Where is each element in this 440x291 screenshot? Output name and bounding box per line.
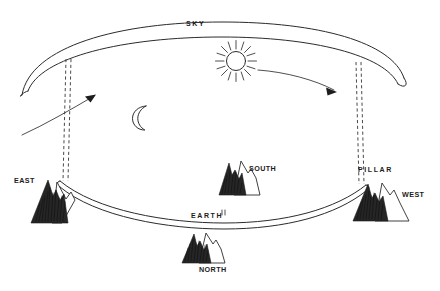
sky-label: SKY [186, 20, 205, 27]
earth-disc-arc [57, 181, 369, 229]
earth-label: EARTH [191, 212, 223, 219]
sun-icon [216, 41, 257, 82]
mountain-icon-north [182, 233, 225, 263]
north-label: NORTH [199, 266, 227, 273]
crescent-moon-icon [133, 106, 147, 130]
arrow-down-right-icon [258, 70, 337, 96]
sky-vault-arc [20, 22, 406, 96]
south-label: SOUTH [249, 165, 276, 172]
west-label: WEST [402, 191, 424, 198]
dashed-pillar-icon-left [63, 59, 71, 181]
mountain-icon-east [31, 180, 75, 223]
east-label: EAST [14, 177, 35, 184]
arrow-up-right-icon [22, 95, 96, 136]
diagram-canvas [0, 0, 440, 291]
pillar-label: PILLAR [358, 166, 393, 173]
cosmology-diagram: SKY EARTH EAST WEST NORTH SOUTH PILLAR [0, 0, 440, 291]
